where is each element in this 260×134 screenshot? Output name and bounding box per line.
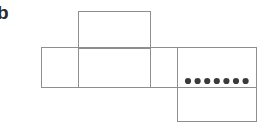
strip-cell-1 [42,48,79,88]
pip-dot [185,78,191,84]
strip-cell-2 [79,48,151,88]
pip-dot [204,78,210,84]
strip-cell-3 [151,48,178,88]
net-pips-group [185,78,249,84]
pip-dot [214,78,220,84]
pip-dot [223,78,229,84]
pip-dot [243,78,249,84]
figure-panel: b [0,0,260,134]
pip-dot [195,78,201,84]
top-square [79,12,151,49]
cube-net-diagram [0,0,260,134]
bottom-square [178,88,257,122]
pip-dot [233,78,239,84]
net-faces-group [42,12,257,122]
